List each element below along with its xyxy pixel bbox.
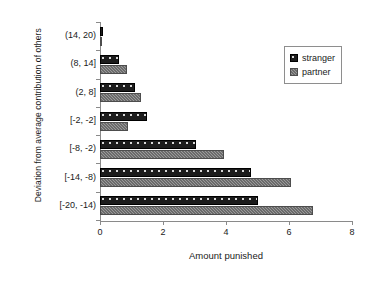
bar-partner-4 xyxy=(100,150,224,159)
x-tick-label-8: 8 xyxy=(337,227,367,237)
bar-stranger-3 xyxy=(100,112,147,121)
y-tick-6 xyxy=(96,192,100,193)
category-label-1: (8, 14] xyxy=(6,58,96,68)
category-label-0: (14, 20) xyxy=(6,30,96,40)
legend-item-stranger: stranger xyxy=(290,51,335,65)
y-tick-3 xyxy=(96,107,100,108)
legend-label-partner: partner xyxy=(302,67,331,77)
y-tick-0 xyxy=(96,22,100,23)
bar-stranger-0 xyxy=(100,27,103,36)
x-tick-label-4: 4 xyxy=(211,227,241,237)
bar-partner-1 xyxy=(100,65,127,74)
legend-label-stranger: stranger xyxy=(302,53,335,63)
bar-chart: Deviation from average contribution of o… xyxy=(0,0,386,283)
x-tick-6 xyxy=(289,221,290,225)
category-label-4: [-8, -2) xyxy=(6,143,96,153)
legend-item-partner: partner xyxy=(290,65,335,79)
x-tick-2 xyxy=(163,221,164,225)
x-tick-4 xyxy=(226,221,227,225)
y-tick-end xyxy=(96,220,100,221)
x-tick-8 xyxy=(352,221,353,225)
x-axis-title: Amount punished xyxy=(100,250,352,261)
bar-stranger-5 xyxy=(100,168,251,177)
stranger-swatch-icon xyxy=(290,54,298,62)
category-label-5: [-14, -8) xyxy=(6,172,96,182)
x-tick-label-0: 0 xyxy=(85,227,115,237)
bar-stranger-6 xyxy=(100,196,258,205)
bar-stranger-2 xyxy=(100,83,135,92)
x-tick-0 xyxy=(100,221,101,225)
bar-partner-0 xyxy=(100,37,102,46)
bar-stranger-1 xyxy=(100,55,119,64)
bar-partner-2 xyxy=(100,93,141,102)
y-tick-2 xyxy=(96,79,100,80)
category-label-6: [-20, -14) xyxy=(6,200,96,210)
y-tick-5 xyxy=(96,163,100,164)
y-tick-4 xyxy=(96,135,100,136)
bar-stranger-4 xyxy=(100,140,196,149)
bar-partner-5 xyxy=(100,178,291,187)
partner-swatch-icon xyxy=(290,68,298,76)
category-label-3: [-2, -2] xyxy=(6,115,96,125)
x-tick-label-6: 6 xyxy=(274,227,304,237)
y-tick-1 xyxy=(96,50,100,51)
bar-partner-3 xyxy=(100,122,128,131)
x-tick-label-2: 2 xyxy=(148,227,178,237)
bar-partner-6 xyxy=(100,206,313,215)
category-label-2: (2, 8] xyxy=(6,87,96,97)
chart-legend: stranger partner xyxy=(284,46,342,84)
